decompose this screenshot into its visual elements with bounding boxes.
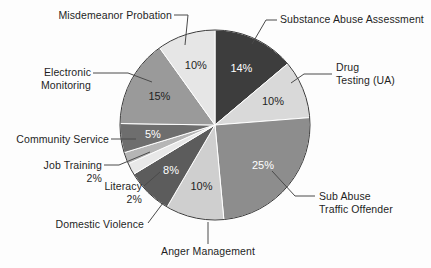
pie-slice-group	[120, 30, 310, 220]
callout-job-training: Job Training 2%	[16, 159, 102, 184]
callout-misdemeanor-probation: Misdemeanor Probation	[32, 9, 172, 22]
slice-value-anger-management: 10%	[190, 180, 212, 192]
slice-value-sub-abuse-traffic-offender: 25%	[252, 159, 274, 171]
pie-chart-figure: 14%10%25%10%8%5%15%10% Substance Abuse A…	[0, 0, 431, 268]
slice-value-misdemeanor-probation: 10%	[185, 59, 207, 71]
callout-electronic-monitoring-line2: Monitoring	[6, 79, 91, 92]
callout-electronic-monitoring-line1: Electronic	[6, 66, 91, 79]
callout-substance-abuse-assessment-text: Substance Abuse Assessment	[280, 13, 424, 26]
callout-community-service-text: Community Service	[6, 133, 109, 146]
slice-value-drug-testing-ua: 10%	[262, 95, 284, 107]
callout-substance-abuse-assessment: Substance Abuse Assessment	[280, 13, 424, 26]
callout-drug-testing-line1: Drug	[336, 61, 395, 74]
slice-value-community-service: 5%	[145, 128, 161, 140]
callout-job-training-value: 2%	[16, 172, 102, 185]
slice-value-substance-abuse-assessment: 14%	[230, 62, 252, 74]
callout-anger-management-text: Anger Management	[144, 245, 272, 258]
leader-line-domestic-violence	[148, 203, 163, 223]
callout-sub-abuse-traffic-offender-line2: Traffic Offender	[319, 203, 393, 216]
callout-drug-testing-line2: Testing (UA)	[336, 74, 395, 87]
callout-anger-management: Anger Management	[144, 245, 272, 258]
callout-sub-abuse-traffic-offender: Sub Abuse Traffic Offender	[319, 190, 393, 215]
callout-literacy-value: 2%	[56, 193, 142, 206]
callout-misdemeanor-probation-text: Misdemeanor Probation	[32, 9, 172, 22]
callout-electronic-monitoring: Electronic Monitoring	[6, 66, 91, 91]
callout-domestic-violence: Domestic Violence	[14, 218, 144, 231]
callout-community-service: Community Service	[6, 133, 109, 146]
callout-sub-abuse-traffic-offender-line1: Sub Abuse	[319, 190, 393, 203]
callout-drug-testing: Drug Testing (UA)	[336, 61, 395, 86]
callout-domestic-violence-text: Domestic Violence	[14, 218, 144, 231]
callout-job-training-text: Job Training	[16, 159, 102, 172]
slice-value-domestic-violence: 8%	[163, 164, 179, 176]
slice-value-electronic-monitoring: 15%	[148, 90, 170, 102]
